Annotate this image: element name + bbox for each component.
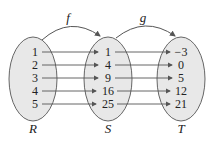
mapping-diagram: f g 1 2 3 4 5 1 4 9 16 25 −3 0 5 12 21 bbox=[0, 0, 218, 143]
svg-text:12: 12 bbox=[175, 84, 187, 98]
svg-text:2: 2 bbox=[32, 58, 38, 72]
svg-text:4: 4 bbox=[32, 84, 38, 98]
svg-text:5: 5 bbox=[178, 71, 184, 85]
svg-text:3: 3 bbox=[32, 71, 38, 85]
svg-text:4: 4 bbox=[105, 58, 111, 72]
svg-text:0: 0 bbox=[178, 58, 184, 72]
svg-text:1: 1 bbox=[105, 45, 111, 59]
svg-text:16: 16 bbox=[102, 84, 114, 98]
set-s-label: S bbox=[105, 121, 112, 136]
svg-text:9: 9 bbox=[105, 71, 111, 85]
f-label: f bbox=[66, 10, 72, 25]
svg-text:1: 1 bbox=[32, 45, 38, 59]
set-t-label: T bbox=[177, 121, 185, 136]
svg-text:21: 21 bbox=[175, 97, 187, 111]
f-arc bbox=[42, 26, 100, 40]
g-arc bbox=[116, 26, 175, 38]
set-r-elements: 1 2 3 4 5 bbox=[32, 45, 38, 111]
svg-text:−3: −3 bbox=[175, 45, 188, 59]
svg-text:25: 25 bbox=[102, 97, 114, 111]
set-r-label: R bbox=[28, 121, 37, 136]
g-label: g bbox=[140, 10, 147, 25]
svg-text:5: 5 bbox=[32, 97, 38, 111]
